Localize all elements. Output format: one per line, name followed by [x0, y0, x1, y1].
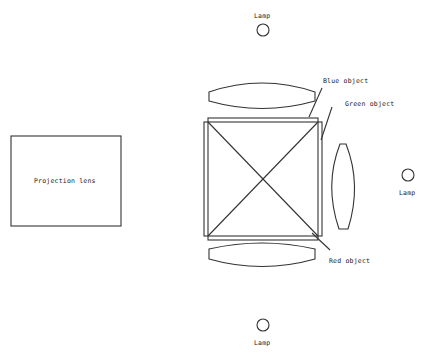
lamp-bottom-icon: [257, 319, 269, 331]
lens-right: [332, 144, 355, 229]
lamp-right-icon: [402, 169, 414, 181]
red-object-label: Red object: [329, 257, 370, 265]
lens-bottom: [209, 243, 315, 267]
lamp-top-icon: [257, 24, 269, 36]
lamp-top-label: Lamp: [254, 12, 270, 20]
lens-top: [209, 83, 315, 109]
lamp-right-label: Lamp: [399, 189, 415, 197]
green-object-label: Green object: [345, 100, 394, 108]
dichroic-prism-cube: [204, 118, 322, 240]
green-object-leader: [321, 107, 332, 140]
projection-lens-label: Projection lens: [34, 177, 96, 185]
blue-object-label: Blue object: [323, 77, 368, 85]
lamp-bottom-label: Lamp: [254, 339, 270, 347]
